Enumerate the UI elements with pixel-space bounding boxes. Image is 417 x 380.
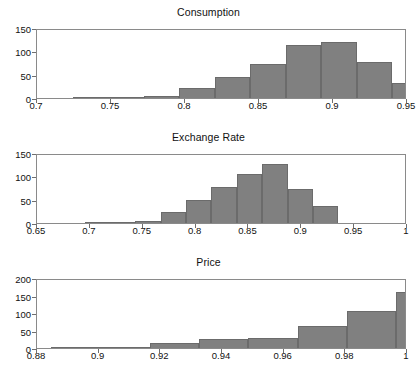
x-axis-labels: 0.70.750.80.850.90.95: [36, 101, 406, 117]
y-tick-label: 100: [1, 173, 31, 183]
y-tick-mark: [32, 224, 36, 225]
y-tick-label: 50: [1, 72, 31, 82]
y-tick-label: 0: [1, 95, 31, 105]
y-tick-mark: [32, 29, 36, 30]
y-tick-label: 100: [1, 310, 31, 320]
x-tick-mark: [332, 99, 333, 103]
histogram-bar: [321, 42, 357, 98]
histogram-bar: [108, 97, 144, 98]
y-tick-mark: [32, 76, 36, 77]
bars-container: [37, 30, 405, 98]
histogram-bar: [237, 174, 262, 223]
y-tick-label: 150: [1, 25, 31, 35]
panel-title: Exchange Rate: [0, 131, 417, 143]
panel-title: Price: [0, 256, 417, 268]
y-tick-label: 100: [1, 48, 31, 58]
x-tick-mark: [353, 224, 354, 228]
histogram-bar: [313, 206, 338, 223]
x-tick-mark: [300, 224, 301, 228]
y-tick-mark: [32, 332, 36, 333]
x-tick-mark: [36, 224, 37, 228]
y-tick-label: 200: [1, 275, 31, 285]
histogram-bar: [396, 292, 405, 348]
y-tick-mark: [32, 297, 36, 298]
histogram-panel-exchange-rate: Exchange Rate 050100150 0.650.70.750.80.…: [0, 125, 417, 250]
y-tick-label: 50: [1, 197, 31, 207]
x-tick-mark: [258, 99, 259, 103]
histogram-panel-consumption: Consumption 050100150 0.70.750.80.850.90…: [0, 0, 417, 125]
y-tick-mark: [32, 52, 36, 53]
histogram-bar: [161, 212, 186, 223]
histogram-bar: [211, 187, 236, 223]
y-axis-labels: 050100150: [0, 29, 31, 99]
y-axis-labels: 050100150200: [0, 279, 31, 349]
histogram-bar: [144, 96, 180, 98]
y-tick-mark: [32, 177, 36, 178]
y-tick-mark: [32, 279, 36, 280]
plot-frame: [36, 29, 406, 99]
histogram-bar: [135, 221, 160, 223]
histogram-bar: [347, 311, 396, 348]
histogram-bar: [150, 343, 199, 348]
histogram-bar: [199, 339, 248, 348]
figure-canvas: Consumption 050100150 0.70.750.80.850.90…: [0, 0, 417, 380]
x-tick-mark: [159, 349, 160, 353]
x-axis-labels: 0.880.90.920.940.960.981: [36, 351, 406, 367]
y-tick-mark: [32, 314, 36, 315]
y-tick-mark: [32, 349, 36, 350]
plot-frame: [36, 279, 406, 349]
bars-container: [37, 280, 405, 348]
histogram-bar: [298, 326, 347, 348]
panel-title: Consumption: [0, 6, 417, 18]
histogram-bar: [100, 347, 149, 348]
x-tick-mark: [221, 349, 222, 353]
y-axis-labels: 050100150: [0, 154, 31, 224]
y-tick-label: 150: [1, 150, 31, 160]
x-tick-mark: [98, 349, 99, 353]
x-tick-mark: [406, 224, 407, 228]
histogram-bar: [85, 222, 110, 223]
plot-frame: [36, 154, 406, 224]
x-tick-mark: [142, 224, 143, 228]
x-tick-mark: [344, 349, 345, 353]
histogram-bar: [248, 338, 297, 349]
y-tick-label: 150: [1, 293, 31, 303]
x-axis-labels: 0.650.70.750.80.850.90.951: [36, 226, 406, 242]
histogram-bar: [73, 97, 109, 98]
histogram-bar: [250, 64, 286, 98]
x-tick-mark: [406, 349, 407, 353]
histogram-bar: [288, 189, 313, 223]
x-tick-mark: [36, 99, 37, 103]
x-tick-mark: [184, 99, 185, 103]
histogram-panel-price: Price 050100150200 0.880.90.920.940.960.…: [0, 250, 417, 375]
x-tick-mark: [247, 224, 248, 228]
x-tick-mark: [36, 349, 37, 353]
y-tick-mark: [32, 99, 36, 100]
histogram-bar: [357, 62, 393, 98]
histogram-bar: [186, 200, 211, 223]
x-tick-mark: [283, 349, 284, 353]
histogram-bar: [392, 83, 405, 98]
x-tick-mark: [89, 224, 90, 228]
histogram-bar: [110, 222, 135, 223]
histogram-bar: [286, 45, 322, 98]
x-tick-mark: [195, 224, 196, 228]
histogram-bar: [215, 77, 251, 98]
histogram-bar: [51, 347, 100, 348]
y-tick-label: 50: [1, 328, 31, 338]
x-tick-mark: [406, 99, 407, 103]
y-tick-mark: [32, 154, 36, 155]
histogram-bar: [262, 164, 287, 223]
bars-container: [37, 155, 405, 223]
y-tick-mark: [32, 201, 36, 202]
x-tick-mark: [110, 99, 111, 103]
histogram-bar: [179, 88, 215, 98]
